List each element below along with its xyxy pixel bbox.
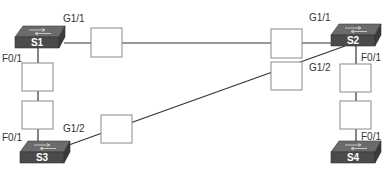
box-s1s2-a xyxy=(91,28,122,57)
box-s1s3-b xyxy=(22,101,53,129)
port-label-s2-g11: G1/1 xyxy=(309,12,331,23)
box-s3s2-a xyxy=(101,115,132,143)
box-s1s2-b xyxy=(271,29,302,58)
port-label-s1-g11: G1/1 xyxy=(63,13,85,24)
box-s3s2-b xyxy=(271,62,302,90)
box-s2s4-b xyxy=(340,101,371,129)
port-label-s4-f01: F0/1 xyxy=(361,131,381,142)
port-label-s2-f01: F0/1 xyxy=(361,52,381,63)
switch-s3-label: S3 xyxy=(36,152,49,163)
switch-s1[interactable]: S1 xyxy=(15,26,65,48)
port-label-s3-g12: G1/2 xyxy=(63,123,85,134)
links xyxy=(38,43,356,146)
port-label-s3-f01: F0/1 xyxy=(2,132,22,143)
switch-s1-label: S1 xyxy=(31,37,44,48)
port-label-s2-g12: G1/2 xyxy=(309,62,331,73)
switch-s4[interactable]: S4 xyxy=(331,141,381,163)
box-s2s4-a xyxy=(340,64,371,92)
switch-s2[interactable]: S2 xyxy=(331,24,381,46)
box-s1s3-a xyxy=(22,63,53,91)
port-label-s1-f01: F0/1 xyxy=(2,53,22,64)
network-diagram: S1 S2 S3 S4 G1/1 F0/1 G1/1 G1/2 F0/1 F0/… xyxy=(0,0,389,180)
switch-s2-label: S2 xyxy=(347,35,360,46)
switch-s3[interactable]: S3 xyxy=(20,141,70,163)
switch-s4-label: S4 xyxy=(347,152,360,163)
